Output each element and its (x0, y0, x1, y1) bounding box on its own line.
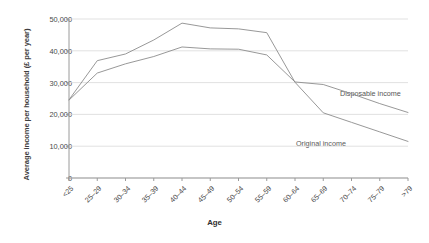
gridlines (69, 19, 408, 178)
axis-lines (69, 19, 408, 178)
chart-container: Average income per household (£ per year… (0, 0, 429, 243)
series-line (69, 47, 408, 113)
plot-area (0, 0, 429, 243)
